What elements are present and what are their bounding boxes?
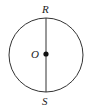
circle-diagram: R O S xyxy=(0,0,87,108)
label-s: S xyxy=(42,95,48,107)
center-point xyxy=(43,51,48,56)
label-r: R xyxy=(41,3,49,15)
label-o: O xyxy=(31,48,39,60)
